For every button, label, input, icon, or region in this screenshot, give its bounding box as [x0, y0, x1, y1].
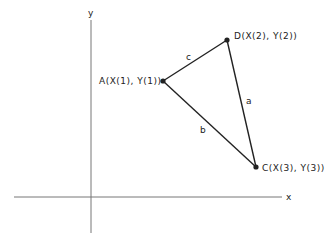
x-axis-label: x [286, 192, 292, 202]
side-a-label: a [246, 96, 252, 106]
triangle-diagram: y x A(X(1), Y(1)) D(X(2), Y(2)) C(X(3), … [0, 0, 334, 242]
point-d-label: D(X(2), Y(2)) [234, 31, 297, 41]
point-a-label: A(X(1), Y(1)) [99, 76, 162, 86]
side-c [163, 40, 227, 81]
point-c [253, 164, 258, 169]
y-axis-label: y [88, 8, 94, 18]
side-b-label: b [200, 125, 206, 135]
side-b [163, 81, 256, 167]
point-d [224, 37, 229, 42]
side-c-label: c [186, 52, 191, 62]
point-c-label: C(X(3), Y(3)) [262, 163, 325, 173]
